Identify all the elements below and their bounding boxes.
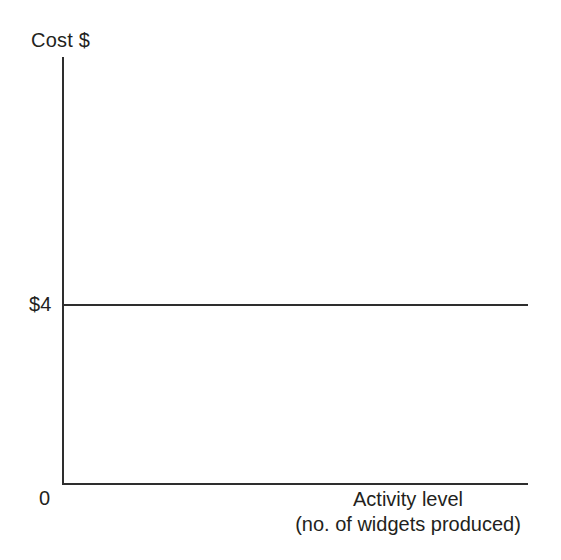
x-axis-title: Activity level (no. of widgets produced) (278, 487, 538, 537)
y-axis-title: Cost $ (31, 29, 90, 52)
x-axis-title-line-1: Activity level (278, 487, 538, 512)
constant-cost-line (62, 304, 528, 306)
origin-label: 0 (39, 487, 50, 510)
y-axis-line (62, 57, 64, 485)
x-axis-title-line-2: (no. of widgets produced) (278, 512, 538, 537)
chart-canvas: Cost $ $4 0 Activity level (no. of widge… (0, 0, 561, 560)
y-axis-tick-label: $4 (29, 293, 52, 316)
x-axis-line (62, 483, 528, 485)
